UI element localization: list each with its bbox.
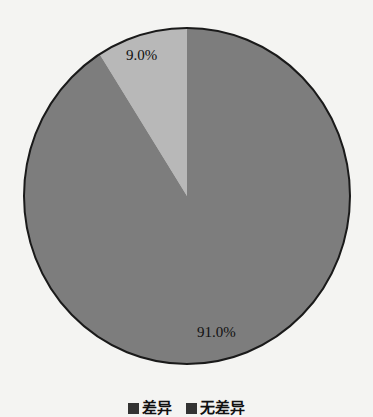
slice-label-small: 9.0% (126, 47, 157, 64)
slice-label-large: 91.0% (197, 324, 236, 341)
legend-item-difference: 差异 (128, 396, 172, 417)
legend-item-no-difference: 无差异 (186, 396, 245, 417)
chart-legend: 差异 无差异 (0, 396, 373, 417)
legend-swatch-difference (128, 403, 139, 414)
legend-swatch-no-difference (186, 403, 197, 414)
legend-label-no-difference: 无差异 (200, 399, 245, 417)
legend-label-difference: 差异 (142, 399, 172, 417)
pie-slice-1 (24, 28, 350, 364)
